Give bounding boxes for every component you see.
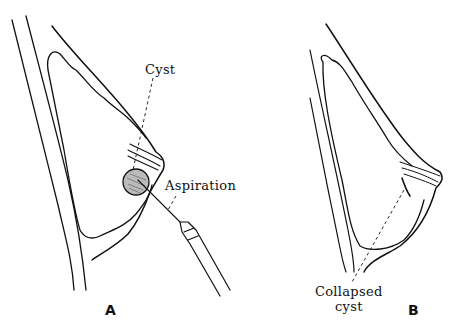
nipple-lines — [128, 144, 162, 170]
collapsed-cyst-leader-line — [352, 190, 404, 282]
panel-label-a: A — [105, 302, 116, 318]
label-collapsed: Collapsed — [315, 284, 383, 299]
panel-b-drawing — [310, 24, 442, 282]
breast-cyst-aspiration-diagram: Cyst Aspiration A Collapsed cyst B — [0, 0, 459, 331]
gland-contour — [48, 52, 152, 238]
diagram-drawing — [0, 0, 459, 331]
nipple-folds-b — [400, 162, 440, 186]
label-cyst: Cyst — [145, 62, 175, 77]
chest-wall-inner — [26, 16, 86, 290]
label-cyst-b: cyst — [335, 299, 363, 314]
skin-contour-b — [326, 24, 442, 272]
panel-a-drawing — [12, 16, 230, 296]
syringe — [180, 222, 230, 296]
panel-label-b: B — [408, 302, 419, 318]
chest-wall-inner-b — [310, 98, 346, 272]
aspiration-leader-line — [168, 196, 176, 210]
gland-contour-b — [321, 56, 424, 250]
chest-wall-outer-b — [310, 50, 354, 272]
label-aspiration: Aspiration — [165, 178, 236, 193]
collapsed-cyst-shape — [402, 178, 410, 196]
